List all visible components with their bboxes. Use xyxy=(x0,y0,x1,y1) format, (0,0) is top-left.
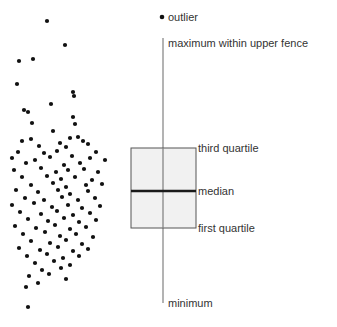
box-plot xyxy=(0,0,337,327)
boxplot-figure: outlier maximum within upper fence third… xyxy=(0,0,337,327)
annotation-upper-fence: maximum within upper fence xyxy=(168,37,308,49)
annotation-third-quartile: third quartile xyxy=(198,142,259,154)
outlier-point xyxy=(160,15,165,20)
annotation-minimum: minimum xyxy=(168,297,213,309)
annotation-first-quartile: first quartile xyxy=(198,222,255,234)
annotation-outlier: outlier xyxy=(168,11,198,23)
annotation-median: median xyxy=(198,185,234,197)
